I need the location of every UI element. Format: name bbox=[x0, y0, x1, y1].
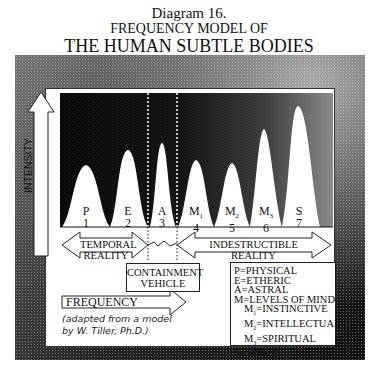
peak-label-3: A3 bbox=[154, 205, 170, 229]
containment-vehicle-box: CONTAINMENT VEHICLE bbox=[126, 263, 200, 292]
zigzag-connector bbox=[148, 241, 177, 246]
temporal-reality-label: TEMPORAL REALITY bbox=[80, 239, 132, 261]
citation: (adapted from a model by W. Tiller, Ph.D… bbox=[62, 313, 172, 337]
indestructible-reality-label: INDESTRUCTIBLE REALITY bbox=[195, 239, 312, 261]
peak-label-5: M25 bbox=[222, 205, 242, 234]
peak-label-1: P1 bbox=[78, 205, 94, 229]
legend-item-spirit: S=SPIRIT bbox=[234, 348, 332, 358]
frequency-label: FREQUENCY bbox=[66, 295, 138, 310]
legend-box: P=PHYSICAL E=ETHERIC A=ASTRAL M=LEVELS O… bbox=[230, 262, 336, 346]
legend-item-spiritual: M3=SPIRITUAL bbox=[234, 334, 332, 349]
peak-label-2: E2 bbox=[120, 205, 136, 229]
intensity-label: INTENSITY bbox=[22, 143, 34, 193]
peak-label-4: M14 bbox=[186, 205, 206, 234]
legend-item-instinctive: M1=INSTINCTIVE bbox=[234, 304, 332, 319]
legend-item-intellectual: M2=INTELLECTUAL bbox=[234, 319, 332, 334]
peak-label-7: S7 bbox=[291, 205, 307, 229]
peak-label-6: M36 bbox=[256, 205, 276, 234]
